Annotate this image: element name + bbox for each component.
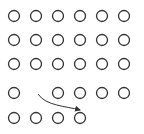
dot-grid-diagram bbox=[0, 0, 144, 134]
circle-r4-c6 bbox=[119, 88, 130, 99]
circle-r1-c5 bbox=[97, 11, 108, 22]
circle-r3-c1 bbox=[9, 59, 20, 70]
circle-r2-c3 bbox=[53, 35, 64, 46]
circle-r2-c5 bbox=[97, 35, 108, 46]
circle-r1-c6 bbox=[119, 11, 130, 22]
circle-r5-c4 bbox=[75, 113, 86, 124]
circle-r5-c2 bbox=[31, 113, 42, 124]
circle-r1-c1 bbox=[9, 11, 20, 22]
circle-r4-c4 bbox=[75, 88, 86, 99]
circle-r3-c6 bbox=[119, 59, 130, 70]
circle-r1-c4 bbox=[75, 11, 86, 22]
circle-r5-c1 bbox=[9, 113, 20, 124]
circle-r3-c5 bbox=[97, 59, 108, 70]
circle-r2-c2 bbox=[31, 35, 42, 46]
circle-r4-c5 bbox=[97, 88, 108, 99]
circle-r2-c4 bbox=[75, 35, 86, 46]
circle-r3-c3 bbox=[53, 59, 64, 70]
circle-r1-c3 bbox=[53, 11, 64, 22]
circle-r3-c2 bbox=[31, 59, 42, 70]
circle-r2-c6 bbox=[119, 35, 130, 46]
circle-r5-c3 bbox=[53, 113, 64, 124]
circle-r3-c4 bbox=[75, 59, 86, 70]
circle-r4-c1 bbox=[9, 88, 20, 99]
move-arrow bbox=[38, 94, 80, 110]
circle-r2-c1 bbox=[9, 35, 20, 46]
circle-grid bbox=[9, 11, 130, 124]
circle-r4-c3 bbox=[53, 88, 64, 99]
circle-r1-c2 bbox=[31, 11, 42, 22]
